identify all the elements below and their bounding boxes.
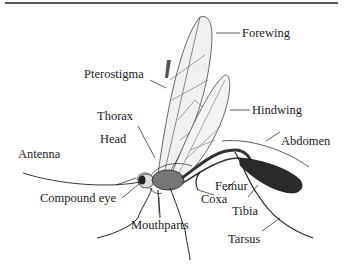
label-hindwing: Hindwing [252,104,302,117]
label-tarsus: Tarsus [228,233,260,246]
label-abdomen: Abdomen [281,135,330,148]
label-thorax: Thorax [97,110,133,123]
compound-eye-shape [139,176,146,185]
thorax-shape [152,170,184,190]
label-antenna: Antenna [18,148,60,161]
label-tibia: Tibia [232,205,258,218]
label-femur: Femur [215,180,248,193]
abdomen-shape [240,158,302,193]
antenna-shape [23,173,140,185]
label-compound-eye: Compound eye [40,192,116,205]
label-coxa: Coxa [201,193,227,206]
label-mouthparts: Mouthparts [131,219,189,232]
label-forewing: Forewing [242,27,290,40]
label-pterostigma: Pterostigma [84,68,144,81]
label-head: Head [100,133,126,146]
